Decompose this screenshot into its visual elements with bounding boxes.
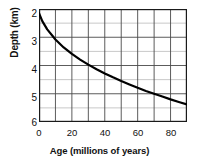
x-axis-title: Age (millions of years) — [0, 145, 199, 156]
y-tick-label-2: 4 — [23, 65, 37, 75]
chart-canvas — [39, 9, 187, 122]
data-curve-ocean-floor-depth — [39, 13, 187, 104]
x-tick-label-2: 40 — [94, 128, 116, 138]
major-gridlines — [39, 9, 187, 122]
x-tick-label-0: 0 — [28, 128, 50, 138]
x-tick-label-4: 80 — [160, 128, 182, 138]
x-tick-label-3: 60 — [127, 128, 149, 138]
y-tick-label-0: 2 — [23, 9, 37, 19]
y-tick-label-1: 3 — [23, 37, 37, 47]
y-tick-label-4: 6 — [23, 118, 37, 128]
plot-area — [39, 9, 187, 122]
chart-figure: Depth (km) Age (millions of years) 2 3 4… — [0, 0, 199, 165]
y-tick-label-3: 5 — [23, 93, 37, 103]
y-axis-title: Depth (km) — [9, 0, 20, 75]
x-tick-label-1: 20 — [61, 128, 83, 138]
